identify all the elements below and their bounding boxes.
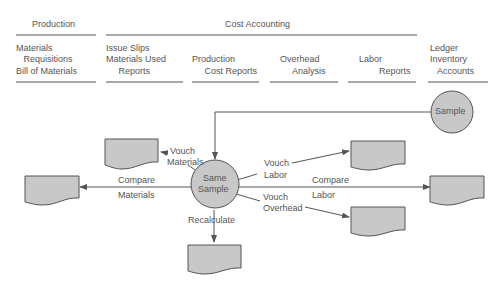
vouch-overhead-label-2: Overhead — [263, 203, 303, 215]
col-line: Reports — [106, 66, 150, 78]
col-line: Analysis — [280, 66, 326, 78]
document-vouch-materials — [105, 139, 158, 169]
compare-materials-label-2: Materials — [118, 190, 155, 202]
document-recalculate — [188, 245, 241, 274]
col-line: Labor — [359, 54, 382, 66]
arrow-vouch-overhead — [305, 207, 349, 217]
col-line: Bill of Materials — [16, 66, 77, 78]
col-line: Accounts — [430, 66, 474, 78]
col-line: Cost Reports — [192, 66, 257, 78]
cost-accounting-title: Cost Accounting — [225, 19, 290, 31]
vouch-labor-label-1: Vouch — [264, 158, 289, 170]
col-line: Requisitions — [16, 54, 73, 66]
production-title: Production — [32, 19, 75, 31]
vouch-overhead-label-1: Vouch — [263, 192, 288, 204]
same-sample-label-2: Sample — [198, 184, 229, 196]
document-vouch-overhead — [351, 207, 405, 236]
col-line: Materials — [16, 43, 53, 55]
diagram-canvas — [0, 0, 502, 289]
document-compare-labor — [430, 176, 484, 205]
col-line: Ledger — [430, 43, 458, 55]
col-line: Reports — [359, 66, 411, 78]
compare-labor-label-1: Compare — [312, 175, 349, 187]
same-sample-label-1: Same — [203, 173, 227, 185]
vouch-materials-label-1: Vouch — [170, 146, 195, 158]
col-line: Overhead — [280, 54, 320, 66]
arrow-vouch-labor — [292, 151, 349, 163]
leader-vouch-labor — [237, 174, 257, 180]
leader-vouch-overhead — [236, 194, 260, 201]
arrow-vouch-materials — [161, 152, 167, 153]
col-line: Production — [192, 54, 235, 66]
compare-materials-label-1: Compare — [118, 175, 155, 187]
document-compare-materials — [25, 176, 79, 205]
col-line: Issue Slips — [106, 43, 150, 55]
recalculate-label: Recalculate — [188, 215, 235, 227]
document-vouch-labor — [351, 141, 405, 170]
col-line: Materials Used — [106, 54, 166, 66]
vouch-materials-label-2: Materials — [167, 157, 204, 169]
compare-labor-label-2: Labor — [312, 190, 335, 202]
sample-label: Sample — [435, 106, 466, 118]
col-line: Inventory — [430, 54, 467, 66]
vouch-labor-label-2: Labor — [264, 170, 287, 182]
